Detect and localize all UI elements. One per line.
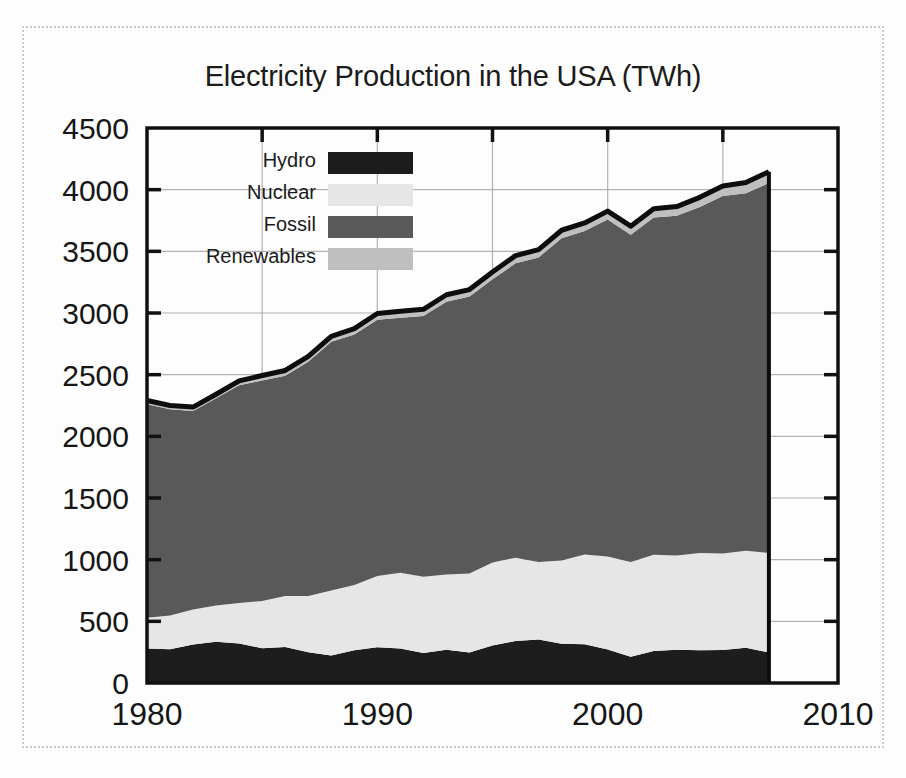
y-axis-tick-label: 4000 (62, 174, 129, 207)
stacked-area-chart: 050010001500200025003000350040004500 198… (0, 0, 906, 778)
legend-swatch-renewables (328, 248, 413, 270)
x-axis-tick-label: 2010 (802, 696, 873, 732)
legend-label-renewables: Renewables (206, 245, 316, 267)
y-axis-tick-label: 2000 (62, 420, 129, 453)
x-axis-tick-label: 1980 (111, 696, 182, 732)
y-axis-tick-label: 4500 (62, 112, 129, 145)
y-axis-tick-label: 3500 (62, 235, 129, 268)
legend-label-fossil: Fossil (264, 213, 316, 235)
x-axis-tick-label: 1990 (342, 696, 413, 732)
y-axis-tick-label: 500 (79, 605, 129, 638)
x-axis-tick-label: 2000 (572, 696, 643, 732)
chart-legend: HydroNuclearFossilRenewables (206, 149, 413, 270)
y-axis-tick-label: 1500 (62, 482, 129, 515)
legend-swatch-nuclear (328, 184, 413, 206)
legend-label-nuclear: Nuclear (247, 181, 316, 203)
x-axis-tick-labels: 1980199020002010 (111, 696, 873, 732)
y-axis-tick-label: 2500 (62, 359, 129, 392)
legend-swatch-fossil (328, 216, 413, 238)
y-axis-tick-label: 1000 (62, 544, 129, 577)
legend-swatch-hydro (328, 152, 413, 174)
legend-label-hydro: Hydro (263, 149, 316, 171)
plot-area-container: 050010001500200025003000350040004500 198… (0, 0, 906, 778)
y-axis-tick-label: 3000 (62, 297, 129, 330)
y-axis-tick-labels: 050010001500200025003000350040004500 (62, 112, 129, 700)
chart-page: Electricity Production in the USA (TWh) … (0, 0, 906, 778)
